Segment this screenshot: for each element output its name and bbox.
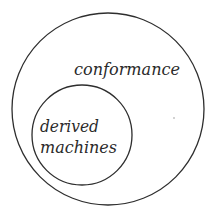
euler-diagram: conformance derived machines: [0, 0, 215, 218]
derived-machines-label-line1: derived: [40, 117, 99, 136]
derived-machines-label-line2: machines: [40, 138, 117, 157]
conformance-set-circle: [12, 13, 204, 205]
scan-artifact-dot: [173, 117, 175, 119]
diagram-canvas: conformance derived machines: [0, 0, 215, 218]
conformance-label: conformance: [74, 60, 180, 79]
